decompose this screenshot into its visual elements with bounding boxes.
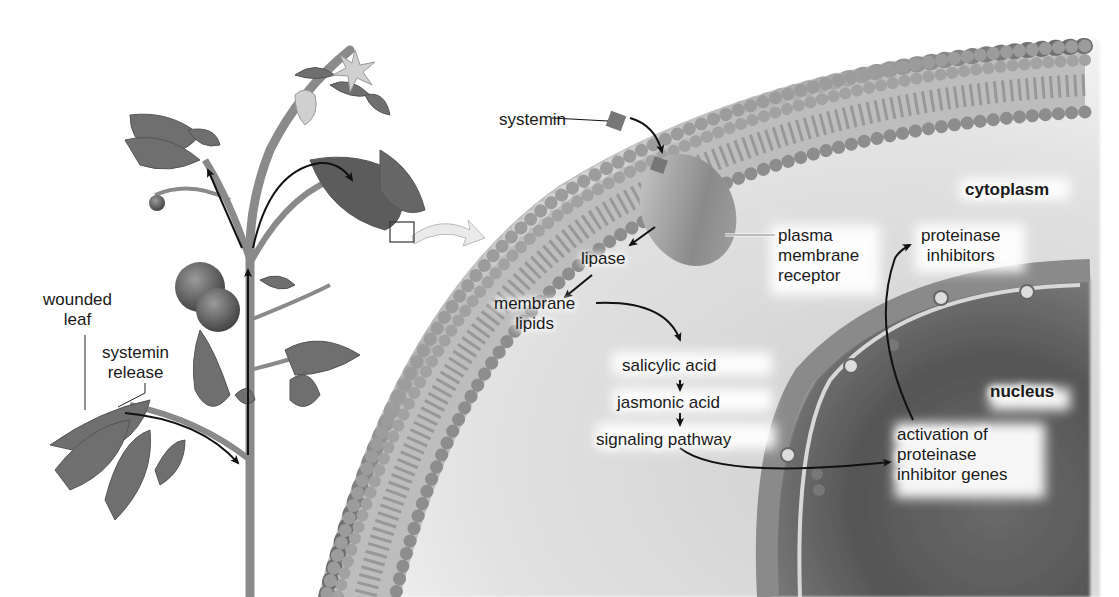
systemin-diagram: wounded leaf systemin release systemin c…	[0, 0, 1119, 597]
label-cytoplasm: cytoplasm	[965, 180, 1049, 200]
label-systemin-release: systemin release	[102, 343, 169, 383]
label-plasma-membrane-receptor: plasma membrane receptor	[778, 226, 859, 286]
label-lipase: lipase	[581, 249, 625, 269]
label-membrane-lipids: membrane lipids	[494, 294, 575, 334]
pathway-step-signaling-pathway: signaling pathway	[596, 430, 731, 450]
label-nucleus: nucleus	[990, 382, 1054, 402]
tomato-fruit	[196, 288, 240, 332]
systemin-peptide	[606, 111, 627, 132]
zoom-arrow-icon	[412, 220, 485, 246]
label-proteinase-inhibitors: proteinase inhibitors	[921, 226, 1000, 266]
pathway-step-jasmonic-acid: jasmonic acid	[617, 393, 720, 413]
label-gene-activation: activation of proteinase inhibitor genes	[897, 425, 1008, 485]
label-wounded-leaf: wounded leaf	[43, 290, 112, 330]
pathway-step-salicylic-acid: salicylic acid	[622, 356, 716, 376]
label-systemin: systemin	[499, 110, 566, 130]
cell-section	[318, 40, 1100, 597]
